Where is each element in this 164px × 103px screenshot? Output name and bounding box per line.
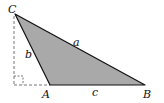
- triangle-abc: [15, 14, 145, 85]
- side-label-c: c: [92, 86, 98, 99]
- side-label-b: b: [25, 48, 32, 61]
- side-label-a: a: [73, 36, 80, 49]
- vertex-label-a: A: [41, 88, 50, 101]
- triangle-diagram: C A B a b c: [0, 0, 164, 103]
- right-angle-marker: [14, 76, 23, 85]
- vertex-label-c: C: [8, 3, 17, 16]
- vertex-label-b: B: [142, 88, 151, 101]
